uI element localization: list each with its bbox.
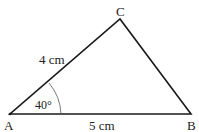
vertex-a-dot — [9, 113, 12, 116]
angle-label-a: 40° — [35, 99, 52, 111]
triangle-figure — [0, 0, 199, 132]
vertex-label-a: A — [4, 119, 13, 132]
triangle-diagram: C A B 4 cm 5 cm 40° — [0, 0, 199, 132]
side-label-ab: 5 cm — [89, 119, 115, 132]
side-label-ac: 4 cm — [39, 53, 65, 66]
vertex-label-b: B — [187, 119, 196, 132]
vertex-label-c: C — [116, 5, 125, 18]
